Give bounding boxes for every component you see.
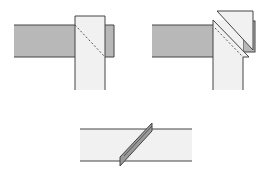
figure-step-1 [14, 16, 114, 90]
figure-step-2 [152, 11, 255, 90]
vertical-light-strip [75, 16, 105, 90]
fold-diagram [0, 0, 273, 175]
figure-step-3 [80, 123, 192, 166]
horizontal-gray-strip [152, 25, 213, 57]
